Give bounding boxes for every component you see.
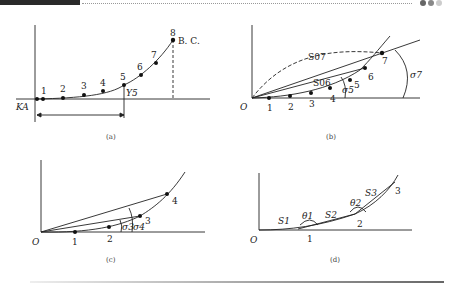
svg-text:σ7: σ7: [410, 70, 422, 80]
figure-d-labels: S1 S2 S3 θ1 θ2 1 2 3 O (d): [250, 186, 401, 264]
svg-text:2: 2: [357, 219, 363, 229]
svg-text:O: O: [240, 102, 248, 112]
figure-canvas: 1 2 3 4 5 6 7 8 B. C. Y5 KA (a) 1 2 3 4 …: [0, 0, 454, 283]
svg-text:8: 8: [170, 28, 176, 38]
figure-b: [252, 25, 420, 98]
figure-b-labels: 1 2 3 4 5 6 7 S07 S06 σ5 σ7 O (b): [240, 52, 422, 141]
svg-text:(c): (c): [106, 256, 116, 264]
svg-text:S3: S3: [365, 188, 377, 198]
svg-text:7: 7: [382, 56, 388, 66]
point-label: 1: [41, 86, 47, 96]
figure-a-labels: 1 2 3 4 5 6 7 8 B. C. Y5 KA (a): [15, 28, 200, 141]
svg-text:3: 3: [81, 81, 87, 91]
svg-text:3: 3: [309, 99, 315, 109]
svg-text:5: 5: [354, 80, 360, 90]
svg-text:1: 1: [307, 234, 313, 244]
svg-text:θ2: θ2: [350, 198, 361, 208]
svg-text:σ4: σ4: [133, 222, 145, 232]
svg-text:2: 2: [107, 234, 113, 244]
svg-text:3: 3: [395, 186, 401, 196]
svg-text:S06: S06: [313, 78, 331, 88]
figure-c-points: [73, 192, 169, 234]
svg-text:(b): (b): [326, 133, 336, 141]
svg-text:5: 5: [120, 72, 126, 82]
svg-text:S1: S1: [278, 216, 290, 226]
svg-text:4: 4: [100, 78, 106, 88]
svg-text:θ1: θ1: [302, 211, 313, 221]
svg-text:1: 1: [267, 103, 273, 113]
svg-text:6: 6: [137, 62, 143, 72]
svg-text:KA: KA: [15, 102, 29, 112]
svg-text:(a): (a): [106, 133, 116, 141]
svg-text:σ5: σ5: [342, 85, 354, 95]
svg-text:S07: S07: [308, 52, 326, 62]
svg-text:2: 2: [288, 102, 294, 112]
svg-text:Y5: Y5: [126, 88, 138, 98]
svg-text:(d): (d): [330, 256, 340, 264]
svg-text:O: O: [250, 235, 258, 245]
svg-text:4: 4: [330, 94, 336, 104]
svg-text:3: 3: [145, 216, 151, 226]
svg-text:2: 2: [60, 84, 66, 94]
svg-text:S2: S2: [325, 210, 337, 220]
svg-text:B. C.: B. C.: [178, 36, 200, 46]
svg-text:4: 4: [172, 196, 178, 206]
svg-text:6: 6: [368, 72, 374, 82]
svg-text:O: O: [32, 237, 40, 247]
svg-text:1: 1: [72, 237, 78, 247]
svg-text:7: 7: [151, 50, 157, 60]
